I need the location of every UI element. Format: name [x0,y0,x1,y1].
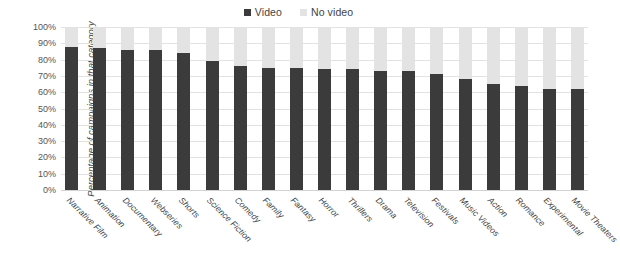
x-axis-tick: Animation [93,193,106,265]
bar-column[interactable] [206,27,219,190]
bar-segment-no-video [262,27,275,68]
legend-item-no-video[interactable]: No video [300,6,353,18]
x-axis-tick: Horror [318,193,331,265]
x-axis-tick: Television [402,193,415,265]
x-axis-tick: Narrative Film [65,193,78,265]
bar-segment-video [402,71,415,190]
bar-column[interactable] [571,27,584,190]
y-axis-tick-label: 70% [38,71,56,81]
bar-column[interactable] [121,27,134,190]
bar-column[interactable] [346,27,359,190]
y-axis-tick-label: 30% [38,136,56,146]
bar-column[interactable] [459,27,472,190]
bar-column[interactable] [487,27,500,190]
x-axis-tick-label: Drama [374,195,399,220]
bar-segment-no-video [121,27,134,50]
bar-segment-video [206,61,219,190]
x-axis-tick-label: Action [486,195,510,219]
bar-segment-video [93,48,106,190]
legend-swatch-no-video [300,9,307,16]
legend-swatch-video [244,9,251,16]
x-axis-tick: Webseries [149,193,162,265]
x-axis-tick-label: Horror [317,195,342,220]
y-axis-ticks: 100%90%80%70%60%50%40%30%20%10%0% [23,27,56,190]
x-axis-tick: Family [262,193,275,265]
bar-segment-no-video [430,27,443,74]
bar-segment-video [374,71,387,190]
bar-segment-video [571,89,584,190]
bar-segment-video [290,68,303,190]
x-axis-tick: Drama [374,193,387,265]
y-axis-tick-label: 100% [33,22,56,32]
bar-segment-no-video [177,27,190,53]
bar-segment-no-video [206,27,219,61]
bar-column[interactable] [402,27,415,190]
y-axis-tick-label: 0% [43,185,56,195]
bar-segment-no-video [374,27,387,71]
x-axis-tick: Music Videos [459,193,472,265]
x-axis-tick: Festivals [430,193,443,265]
bar-segment-video [430,74,443,190]
y-axis-tick-label: 50% [38,104,56,114]
bars-container [61,27,588,190]
y-axis-tick-label: 40% [38,120,56,130]
gridline [61,190,588,191]
y-axis-tick-label: 10% [38,169,56,179]
x-axis-tick-label: Festivals [430,195,461,226]
bar-column[interactable] [65,27,78,190]
bar-column[interactable] [262,27,275,190]
x-axis-tick: Shorts [177,193,190,265]
x-axis-tick: Romance [515,193,528,265]
bar-column[interactable] [318,27,331,190]
bar-segment-video [515,86,528,190]
bar-segment-video [346,69,359,190]
plot-area: Percentage of campaigns in that category… [61,27,588,190]
bar-segment-no-video [318,27,331,69]
bar-segment-no-video [93,27,106,48]
bar-segment-no-video [290,27,303,68]
bar-segment-no-video [346,27,359,69]
x-axis-tick: Experimental [543,193,556,265]
x-axis-tick: Comedy [234,193,247,265]
legend-label-video: Video [255,6,282,18]
bar-segment-no-video [459,27,472,79]
x-axis-tick-label: Shorts [177,195,202,220]
bar-column[interactable] [430,27,443,190]
bar-segment-video [234,66,247,190]
bar-segment-no-video [487,27,500,84]
bar-segment-video [177,53,190,190]
bar-segment-no-video [402,27,415,71]
x-axis-tick-label: Movie Theaters [570,195,619,244]
bar-column[interactable] [290,27,303,190]
legend-item-video[interactable]: Video [244,6,282,18]
bar-column[interactable] [515,27,528,190]
bar-column[interactable] [234,27,247,190]
bar-column[interactable] [93,27,106,190]
bar-segment-video [459,79,472,190]
bar-segment-video [318,69,331,190]
y-axis-tick-label: 80% [38,55,56,65]
x-axis-tick: Thrillers [346,193,359,265]
bar-column[interactable] [543,27,556,190]
x-axis-tick: Science Fiction [206,193,219,265]
bar-segment-video [543,89,556,190]
bar-segment-video [262,68,275,190]
bar-column[interactable] [374,27,387,190]
bar-segment-video [487,84,500,190]
bar-segment-no-video [515,27,528,86]
bar-segment-no-video [234,27,247,66]
bar-column[interactable] [177,27,190,190]
x-axis-tick: Action [487,193,500,265]
x-axis-labels: Narrative FilmAnimationDocumentaryWebser… [61,193,588,265]
x-axis-tick-label: Comedy [233,195,263,225]
x-axis-tick: Fantasy [290,193,303,265]
bar-segment-video [65,47,78,190]
x-axis-tick-label: Thrillers [346,195,375,224]
y-axis-tick-label: 60% [38,87,56,97]
y-axis-tick-label: 90% [38,38,56,48]
bar-segment-no-video [149,27,162,50]
x-axis-tick-label: Family [261,195,286,220]
bar-column[interactable] [149,27,162,190]
bar-segment-no-video [571,27,584,89]
